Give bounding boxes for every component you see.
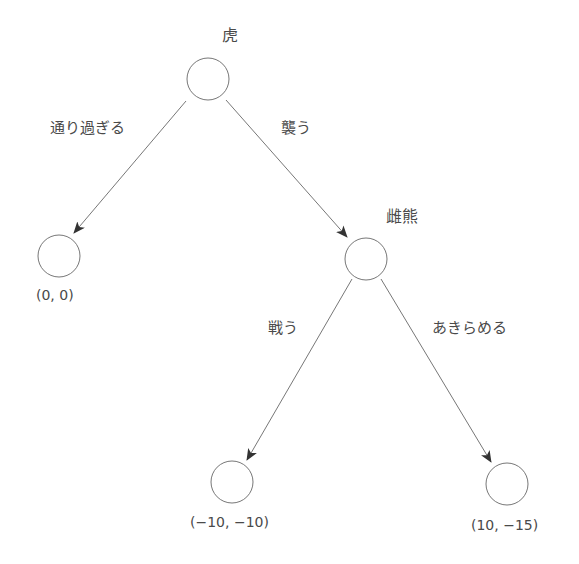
action-label-giveup: あきらめる — [432, 321, 507, 336]
edge-fight — [247, 279, 352, 460]
action-label-attack: 襲う — [281, 121, 311, 136]
node-bear — [345, 238, 387, 280]
player-label-tiger: 虎 — [222, 28, 238, 44]
action-label-fight: 戦う — [268, 321, 298, 336]
payoff-pass: (0, 0) — [36, 288, 74, 302]
game-tree-canvas — [0, 0, 579, 564]
node-tiger — [187, 58, 229, 100]
payoff-giveup: (10, −15) — [471, 518, 538, 532]
payoff-fight: (−10, −10) — [190, 515, 269, 529]
player-label-bear: 雌熊 — [386, 209, 418, 225]
edge-giveup — [381, 279, 491, 462]
node-leaf-giveup — [486, 463, 528, 505]
node-leaf-fight — [211, 461, 253, 503]
node-leaf-pass — [38, 235, 80, 277]
action-label-pass: 通り過ぎる — [50, 121, 125, 136]
